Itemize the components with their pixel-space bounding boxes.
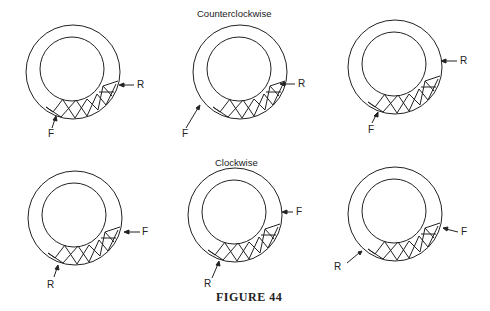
label-r: R bbox=[204, 279, 211, 289]
label-f: F bbox=[182, 129, 188, 139]
cw-diagram-3 bbox=[348, 167, 442, 261]
label-f: F bbox=[142, 227, 148, 237]
cw-diagram-1 bbox=[28, 171, 122, 265]
ccw-diagram-3 bbox=[348, 20, 442, 114]
label-r: R bbox=[47, 280, 54, 290]
label-f: F bbox=[48, 129, 54, 139]
label-r: R bbox=[298, 79, 305, 89]
label-f: F bbox=[461, 227, 467, 237]
section-title-clockwise: Clockwise bbox=[215, 157, 258, 168]
label-r: R bbox=[137, 80, 144, 90]
label-f: F bbox=[296, 207, 302, 217]
section-title-counterclockwise: Counterclockwise bbox=[197, 8, 271, 19]
ccw-diagram-1 bbox=[26, 25, 120, 119]
label-r: R bbox=[460, 56, 467, 66]
figure-caption: FIGURE 44 bbox=[216, 290, 282, 305]
label-f: F bbox=[368, 125, 374, 135]
cw-diagram-2 bbox=[188, 168, 282, 262]
label-r: R bbox=[334, 262, 341, 272]
figure-diagram bbox=[0, 0, 490, 311]
ccw-diagram-2 bbox=[193, 25, 287, 119]
